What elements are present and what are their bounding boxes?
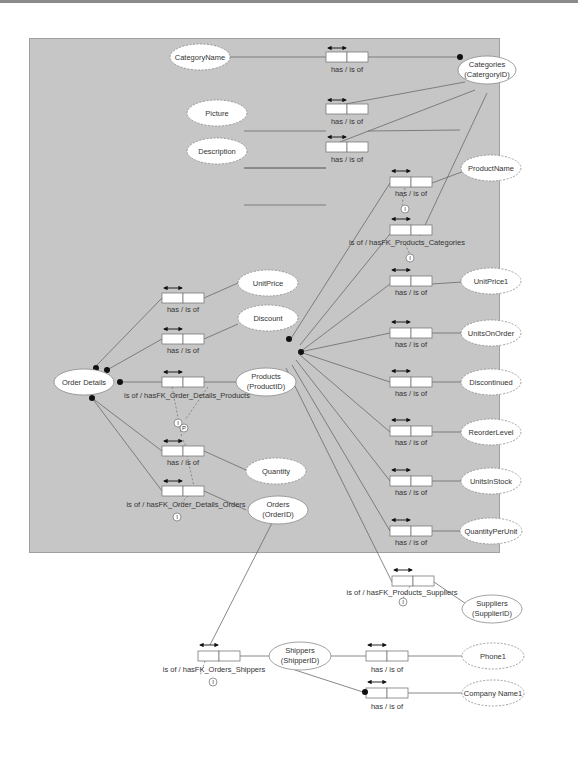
svg-text:is of / hasFK_Products_Supplie: is of / hasFK_Products_Suppliers xyxy=(347,588,458,597)
fact-categoryname[interactable] xyxy=(326,48,368,62)
fact-fk-orders-shippers[interactable] xyxy=(198,645,240,661)
value-quantityperunit[interactable]: QuantityPerUnit xyxy=(460,518,522,544)
svg-text:Company Name1: Company Name1 xyxy=(464,689,522,698)
fact-fk-order-details-products[interactable] xyxy=(162,372,204,387)
fact-unitsonorder[interactable] xyxy=(390,322,432,338)
value-unitsonorder[interactable]: UnitsOnOrder xyxy=(461,320,521,346)
fact-companyname1[interactable] xyxy=(366,682,408,698)
fact-unitprice[interactable] xyxy=(162,288,204,303)
svg-text:(ProductID): (ProductID) xyxy=(247,382,286,391)
value-reorderlevel[interactable]: ReorderLevel xyxy=(461,419,521,445)
svg-text:has / is of: has / is of xyxy=(331,155,364,164)
svg-text:QuantityPerUnit: QuantityPerUnit xyxy=(465,527,519,536)
value-quantity[interactable]: Quantity xyxy=(246,458,306,484)
svg-text:has / is of: has / is of xyxy=(167,305,200,314)
svg-text:has / is of: has / is of xyxy=(395,438,428,447)
svg-text:P: P xyxy=(182,425,186,431)
entity-shippers[interactable]: Shippers (ShipperID) xyxy=(269,642,331,670)
svg-text:(SupplierID): (SupplierID) xyxy=(472,609,513,618)
svg-text:UnitPrice: UnitPrice xyxy=(253,279,283,288)
value-unitsinstock[interactable]: UnitsInStock xyxy=(461,468,521,494)
fact-productname[interactable] xyxy=(390,171,432,187)
value-categoryname[interactable]: CategoryName xyxy=(170,44,230,70)
readings: has / is of has / is of has / is of has … xyxy=(124,65,465,711)
inclusive-or-constraint: I xyxy=(401,205,409,213)
svg-text:Discontinued: Discontinued xyxy=(469,378,512,387)
svg-text:Order Details: Order Details xyxy=(62,378,106,387)
svg-text:UnitsOnOrder: UnitsOnOrder xyxy=(468,329,515,338)
value-discontinued[interactable]: Discontinued xyxy=(461,369,521,395)
fact-fk-products-suppliers[interactable] xyxy=(392,570,434,586)
svg-text:Description: Description xyxy=(198,147,236,156)
svg-text:has / is of: has / is of xyxy=(395,538,428,547)
fact-unitsinstock[interactable] xyxy=(390,470,432,486)
fact-quantityperunit[interactable] xyxy=(390,520,432,536)
svg-text:has / is of: has / is of xyxy=(331,117,364,126)
svg-text:has / is of: has / is of xyxy=(167,346,200,355)
inclusive-or-constraint: I xyxy=(399,598,407,606)
fact-unitprice1[interactable] xyxy=(390,270,432,286)
svg-text:Products: Products xyxy=(251,372,281,381)
svg-text:UnitsInStock: UnitsInStock xyxy=(470,477,512,486)
svg-text:is of / hasFK_Products_Categor: is of / hasFK_Products_Categories xyxy=(349,238,465,247)
value-productname[interactable]: ProductName xyxy=(461,155,521,181)
svg-text:has / is of: has / is of xyxy=(167,458,200,467)
svg-text:is of / hasFK_Orders_Shippers: is of / hasFK_Orders_Shippers xyxy=(163,665,266,674)
svg-text:(OrderID): (OrderID) xyxy=(262,510,294,519)
fact-fk-order-details-orders[interactable] xyxy=(162,481,204,496)
entity-order-details[interactable]: Order Details xyxy=(54,369,114,395)
svg-text:has / is of: has / is of xyxy=(395,389,428,398)
value-description[interactable]: Description xyxy=(187,138,247,164)
fact-discount[interactable] xyxy=(162,329,204,344)
svg-text:has / is of: has / is of xyxy=(371,702,404,711)
inclusive-or-constraint: I xyxy=(173,513,181,521)
value-discount[interactable]: Discount xyxy=(238,305,298,331)
svg-text:Categories: Categories xyxy=(469,60,506,69)
svg-text:has / is of: has / is of xyxy=(395,488,428,497)
svg-text:Suppliers: Suppliers xyxy=(476,599,508,608)
svg-text:Discount: Discount xyxy=(253,314,283,323)
svg-text:Shippers: Shippers xyxy=(285,646,315,655)
p-constraint: P xyxy=(180,424,188,432)
svg-text:ReorderLevel: ReorderLevel xyxy=(468,428,513,437)
value-unitprice[interactable]: UnitPrice xyxy=(238,270,298,296)
fact-quantity[interactable] xyxy=(162,441,204,456)
value-phone1[interactable]: Phone1 xyxy=(462,643,524,669)
entity-products[interactable]: Products (ProductID) xyxy=(236,368,296,396)
orm-diagram: I I I P I I I has / is of has / is of ha… xyxy=(0,0,578,769)
svg-text:is of / hasFK_Order_Details_Pr: is of / hasFK_Order_Details_Products xyxy=(124,391,250,400)
svg-text:has / is of: has / is of xyxy=(331,65,364,74)
svg-text:Phone1: Phone1 xyxy=(480,652,506,661)
inclusive-or-constraint: I xyxy=(209,678,217,686)
value-companyname1[interactable]: Company Name1 xyxy=(462,680,524,706)
svg-text:has / is of: has / is of xyxy=(371,665,404,674)
entity-suppliers[interactable]: Suppliers (SupplierID) xyxy=(462,595,522,623)
svg-text:CategoryName: CategoryName xyxy=(175,53,225,62)
svg-text:has / is of: has / is of xyxy=(395,340,428,349)
svg-text:Quantity: Quantity xyxy=(262,467,290,476)
fact-fk-products-categories[interactable] xyxy=(390,219,432,235)
svg-text:ProductName: ProductName xyxy=(468,164,514,173)
fact-phone1[interactable] xyxy=(366,645,408,661)
svg-text:(ShipperID): (ShipperID) xyxy=(281,656,320,665)
svg-text:Orders: Orders xyxy=(267,500,290,509)
svg-text:has / is of: has / is of xyxy=(395,189,428,198)
entity-orders[interactable]: Orders (OrderID) xyxy=(248,496,308,524)
svg-text:Picture: Picture xyxy=(205,109,228,118)
inclusive-or-constraint: I xyxy=(406,254,414,262)
svg-text:is of / hasFK_Order_Details_Or: is of / hasFK_Order_Details_Orders xyxy=(126,500,245,509)
svg-text:has / is of: has / is of xyxy=(395,288,428,297)
fact-discontinued[interactable] xyxy=(390,371,432,387)
value-picture[interactable]: Picture xyxy=(187,100,247,126)
entity-categories[interactable]: Categories (CatergoryID) xyxy=(458,56,516,84)
fact-reorderlevel[interactable] xyxy=(390,420,432,436)
value-unitprice1[interactable]: UnitPrice1 xyxy=(461,268,521,294)
fact-picture[interactable] xyxy=(326,100,368,114)
svg-text:UnitPrice1: UnitPrice1 xyxy=(474,277,509,286)
svg-text:(CatergoryID): (CatergoryID) xyxy=(464,70,510,79)
